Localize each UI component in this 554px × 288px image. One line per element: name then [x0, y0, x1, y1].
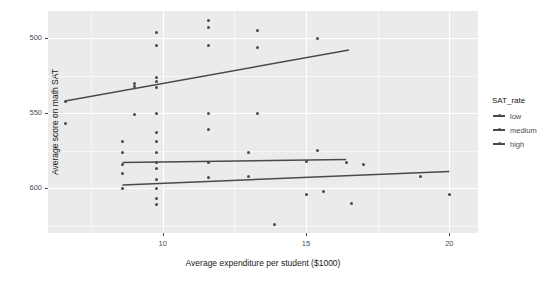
data-point [362, 163, 365, 166]
data-point [322, 190, 325, 193]
data-point [316, 149, 319, 152]
data-point [207, 19, 210, 22]
data-point [448, 193, 451, 196]
legend: SAT_rate low medium high [492, 96, 552, 152]
regression-line [65, 50, 349, 101]
data-point [256, 29, 259, 32]
data-point [133, 113, 136, 116]
data-point [133, 85, 136, 88]
legend-item-medium[interactable]: medium [492, 124, 552, 136]
legend-item-label: low [510, 112, 521, 121]
legend-item-high[interactable]: high [492, 138, 552, 150]
regression-line [123, 172, 450, 186]
data-point [273, 223, 276, 226]
data-point [247, 151, 250, 154]
legend-item-label: high [510, 140, 524, 149]
data-point [121, 187, 124, 190]
legend-item-label: medium [510, 126, 537, 135]
line-point-key-icon [492, 138, 506, 150]
legend-item-low[interactable]: low [492, 110, 552, 122]
data-point [256, 112, 259, 115]
data-point [64, 122, 67, 125]
data-point [256, 46, 259, 49]
line-point-key-icon [492, 124, 506, 136]
data-point [247, 175, 250, 178]
regression-lines [0, 0, 554, 288]
chart-figure: 600550500 Average score on math SAT 1015… [0, 0, 554, 288]
data-point [121, 172, 124, 175]
data-point [305, 193, 308, 196]
data-point [316, 37, 319, 40]
line-point-key-icon [492, 110, 506, 122]
legend-title: SAT_rate [492, 96, 552, 105]
data-point [207, 112, 210, 115]
data-point [121, 151, 124, 154]
data-point [345, 161, 348, 164]
data-point [305, 160, 308, 163]
data-point [64, 100, 67, 103]
data-point [419, 175, 422, 178]
data-point [121, 163, 124, 166]
